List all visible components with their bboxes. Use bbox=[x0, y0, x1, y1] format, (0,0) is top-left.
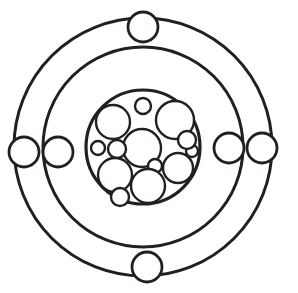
nucleon-left-small bbox=[91, 141, 105, 155]
nucleon-right-upper-small bbox=[178, 131, 196, 149]
electron-outer-top bbox=[128, 12, 158, 42]
electron-inner-left bbox=[43, 137, 73, 167]
nucleon-left-mid-small bbox=[108, 140, 126, 158]
nucleon-right-large bbox=[163, 153, 193, 183]
nucleon-lower-center-large bbox=[131, 169, 165, 203]
nucleon-upper-left-large bbox=[96, 105, 130, 139]
electron-outer-left bbox=[9, 137, 39, 167]
nucleon-lower-left-large bbox=[98, 158, 132, 192]
atom-diagram-canvas bbox=[0, 0, 298, 293]
nucleon-top-small bbox=[135, 98, 151, 114]
electron-outer-bottom bbox=[132, 252, 162, 282]
electron-inner-right bbox=[214, 133, 244, 163]
bohr-atom-diagram bbox=[0, 0, 298, 293]
nucleon-bottom-small bbox=[111, 188, 129, 206]
electron-outer-right bbox=[247, 133, 277, 163]
